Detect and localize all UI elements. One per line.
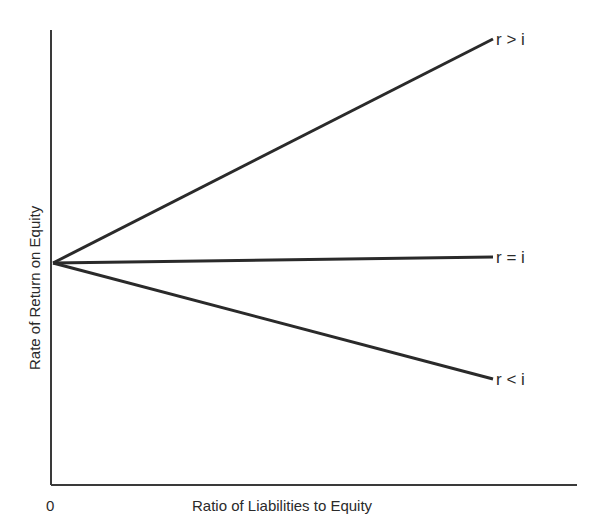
line-r-less-than-i xyxy=(53,263,493,379)
label-r-less-than-i: r < i xyxy=(496,370,525,389)
y-axis-label: Rate of Return on Equity xyxy=(26,205,43,370)
line-r-greater-than-i xyxy=(53,39,493,263)
label-r-equals-i: r = i xyxy=(496,248,525,267)
leverage-diagram: r > i r = i r < i 0 Ratio of Liabilities… xyxy=(0,0,593,532)
label-r-greater-than-i: r > i xyxy=(496,30,525,49)
x-axis-label: Ratio of Liabilities to Equity xyxy=(192,497,373,514)
origin-label: 0 xyxy=(46,497,54,514)
line-r-equals-i xyxy=(53,257,493,263)
